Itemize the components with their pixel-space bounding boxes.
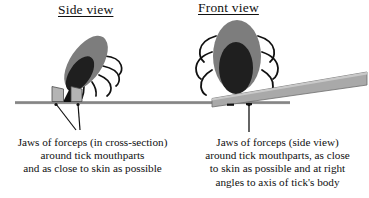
- caption-front-view-line-1: Jaws of forceps (side view): [186, 136, 369, 149]
- caption-front-view-line-4: angles to axis of tick's body: [186, 176, 369, 189]
- caption-front-view-line-2: around tick mouthparts, as close: [186, 149, 369, 162]
- tick-removal-diagram: Side view Front view: [0, 0, 369, 198]
- caption-front-view-line-3: to skin as possible and at right: [186, 162, 369, 175]
- forceps-jaw-left: [52, 87, 64, 102]
- tick-front-view: [196, 20, 278, 95]
- caption-side-view-line-2: around tick mouthparts: [0, 149, 185, 162]
- caption-side-view-line-1: Jaws of forceps (in cross-section): [0, 136, 185, 149]
- forceps-jaw-right: [71, 87, 82, 102]
- panel-front-view-art: [196, 20, 367, 132]
- tick-side-view: [55, 28, 121, 102]
- caption-side-view: Jaws of forceps (in cross-section) aroun…: [0, 136, 185, 176]
- caption-front-view: Jaws of forceps (side view) around tick …: [186, 136, 369, 189]
- caption-side-view-line-3: and as close to skin as possible: [0, 162, 185, 175]
- caption-pointer-line: [247, 103, 251, 132]
- forceps-tip-left: [227, 104, 234, 106]
- caption-pointer-v-lines: [54, 103, 80, 130]
- tick-front-scutum: [219, 42, 253, 94]
